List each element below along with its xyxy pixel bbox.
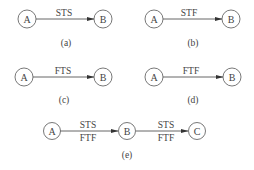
caption-b: (b) [187,38,198,49]
node-label: C [194,126,201,137]
caption-a: (a) [61,38,72,49]
node-label: B [100,72,107,83]
caption-d: (d) [187,95,198,106]
node-label: A [48,126,56,137]
node-label: A [150,72,158,83]
panel-c: A B FTS (c) [15,66,112,106]
panel-d: A B FTF (d) [145,66,241,106]
dependency-diagrams: A B STS (a) A B STF (b) A B FTS (c) A B … [0,0,254,170]
edge-label: FTS [55,66,71,76]
node-label: A [150,14,158,25]
node-label: B [100,14,107,25]
node-label: B [229,72,236,83]
edge-label: STS [56,8,72,18]
node-label: B [228,14,235,25]
panel-e: A B C STS FTF STS FTF (e) [44,120,206,161]
panel-b: A B STF (b) [145,8,240,49]
node-label: A [23,14,31,25]
node-label: B [124,126,131,137]
edge-label: STS [80,120,96,130]
edge-label: FTF [183,66,199,76]
edge-label: FTF [158,133,174,143]
node-label: A [20,72,28,83]
caption-c: (c) [59,95,70,106]
caption-e: (e) [122,150,133,161]
edge-label: FTF [80,133,96,143]
edge-label: STS [158,120,174,130]
panel-a: A B STS (a) [18,8,112,49]
edge-label: STF [181,8,197,18]
